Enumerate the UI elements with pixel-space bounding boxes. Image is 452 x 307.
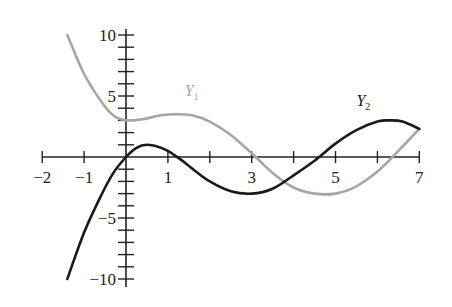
x-tick-label: −1 xyxy=(75,168,93,187)
axes xyxy=(42,29,419,287)
y-tick-label: 10 xyxy=(99,26,116,45)
curve-label-y1: Y1 xyxy=(185,82,199,102)
y-tick-label: −10 xyxy=(89,270,116,289)
x-tick-label: 3 xyxy=(247,168,256,187)
y-tick-label: −5 xyxy=(98,209,116,228)
x-tick-label: 7 xyxy=(415,168,424,187)
x-tick-label: 1 xyxy=(164,168,173,187)
x-tick-label: −2 xyxy=(33,168,51,187)
function-plot: −2−11357105−5−10Y1Y2 xyxy=(0,0,452,307)
x-tick-label: 5 xyxy=(331,168,340,187)
curve-label-y2: Y2 xyxy=(356,92,370,112)
y-tick-label: 5 xyxy=(108,87,117,106)
